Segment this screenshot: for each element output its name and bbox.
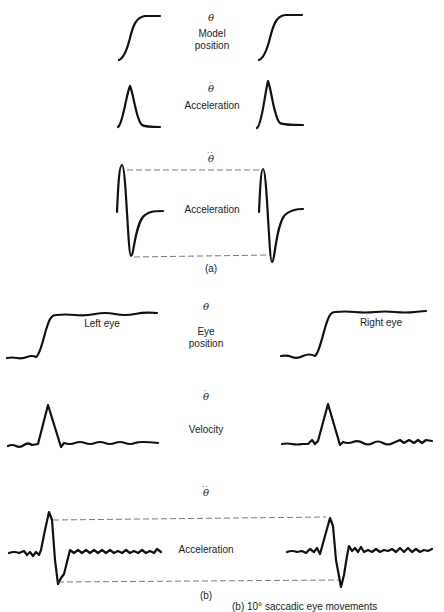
right-eye-label: Right eye [353,317,409,329]
model-position-left-trace [119,16,160,60]
model-position-label-line1: Model [180,28,244,40]
model-acceleration-right-trace [259,169,303,262]
panel-b-label: (b) [191,590,221,602]
model-velocity-right-trace [257,81,303,128]
theta-symbol-position-b: θ [191,301,221,312]
eye-position-label-line1: Eye [176,326,236,338]
theta-symbol-position-a: θ [196,12,226,23]
eye-position-label-line2: position [176,338,236,350]
model-acceleration-label: Acceleration [172,204,252,216]
model-position-label: Model position [180,28,244,52]
panel-a-label: (a) [196,263,226,275]
left-eye-velocity-trace [8,405,158,447]
eye-acceleration-label: Acceleration [166,544,246,556]
model-position-label-line2: position [180,40,244,52]
figure-caption-fragment: (b) 10° saccadic eye movements [232,601,377,612]
left-eye-acceleration-trace [9,512,161,584]
trough-reference-line-a [134,255,270,257]
model-velocity-left-trace [118,86,160,127]
left-eye-label: Left eye [80,318,124,330]
eye-velocity-label: Velocity [176,424,236,436]
model-velocity-label: Acceleration [180,100,244,112]
theta-symbol-acceleration-b: θ [191,487,221,498]
theta-symbol-velocity-a: θ [196,83,226,94]
peak-reference-line-b [53,517,326,520]
trough-reference-line-b [58,580,339,582]
right-eye-acceleration-trace [287,518,432,587]
eye-position-label: Eye position [176,326,236,350]
theta-symbol-velocity-b: θ [191,391,221,402]
model-acceleration-left-trace [117,165,163,256]
theta-symbol-acceleration-a: θ [196,153,226,164]
model-position-right-trace [259,15,302,60]
right-eye-velocity-trace [282,404,432,445]
